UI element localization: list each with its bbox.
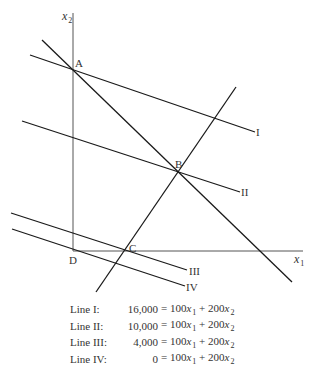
equation-name: Line IV: bbox=[70, 353, 116, 365]
equation-lhs: 4,000 bbox=[116, 336, 161, 348]
point-B-label: B bbox=[175, 159, 182, 170]
eq-sub: 2 bbox=[230, 341, 234, 350]
equation-row: Line II: 10,000 = 100x1 + 200x2 bbox=[70, 318, 290, 335]
equation-row: Line I: 16,000 = 100x1 + 200x2 bbox=[70, 301, 290, 318]
equation-row: Line IV: 0 = 100x1 + 200x2 bbox=[70, 351, 290, 368]
eq-part: + 200 bbox=[196, 335, 224, 347]
eq-var: x bbox=[186, 351, 191, 363]
equation-row: Line III: 4,000 = 100x1 + 200x2 bbox=[70, 334, 290, 351]
eq-part: = 100 bbox=[161, 318, 186, 330]
x1-axis-label: x1 bbox=[294, 254, 304, 269]
point-C-label: C bbox=[129, 243, 136, 254]
line-IV-label: IV bbox=[186, 282, 198, 293]
eq-sub: 2 bbox=[230, 324, 234, 333]
line-IV bbox=[12, 229, 185, 286]
line-II-label: II bbox=[241, 187, 248, 198]
line-I-label: I bbox=[256, 127, 260, 138]
line-I bbox=[30, 55, 255, 132]
eq-var: x bbox=[225, 302, 230, 314]
line-II bbox=[22, 121, 240, 192]
eq-var: x bbox=[186, 318, 191, 330]
equation-name: Line II: bbox=[70, 320, 116, 332]
equation-rhs: = 100x1 + 200x2 bbox=[161, 351, 234, 366]
equation-lhs: 10,000 bbox=[116, 320, 161, 332]
x1-label-sub: 1 bbox=[300, 259, 304, 268]
constraint-line-AB bbox=[42, 40, 292, 282]
line-III-label: III bbox=[189, 266, 200, 277]
equation-rhs: = 100x1 + 200x2 bbox=[161, 318, 234, 333]
eq-sub: 2 bbox=[230, 357, 234, 366]
eq-var: x bbox=[225, 351, 230, 363]
equation-name: Line III: bbox=[70, 336, 116, 348]
equation-name: Line I: bbox=[70, 303, 116, 315]
x2-label-var: x bbox=[62, 9, 67, 23]
equation-rhs: = 100x1 + 200x2 bbox=[161, 302, 234, 317]
eq-part: + 200 bbox=[196, 351, 224, 363]
eq-part: = 100 bbox=[161, 302, 186, 314]
linear-programming-diagram bbox=[0, 0, 310, 300]
equations-legend: Line I: 16,000 = 100x1 + 200x2 Line II: … bbox=[70, 301, 290, 367]
eq-var: x bbox=[186, 302, 191, 314]
line-III bbox=[11, 213, 187, 270]
eq-part: = 100 bbox=[161, 335, 186, 347]
equation-lhs: 0 bbox=[116, 353, 161, 365]
eq-var: x bbox=[186, 335, 191, 347]
x1-label-var: x bbox=[294, 252, 299, 266]
eq-part: + 200 bbox=[196, 318, 224, 330]
constraint-line-CB bbox=[96, 87, 236, 292]
eq-var: x bbox=[225, 318, 230, 330]
equation-rhs: = 100x1 + 200x2 bbox=[161, 335, 234, 350]
point-A-label: A bbox=[75, 58, 83, 69]
x2-label-sub: 2 bbox=[68, 16, 72, 25]
equation-lhs: 16,000 bbox=[116, 303, 161, 315]
eq-sub: 2 bbox=[230, 308, 234, 317]
eq-var: x bbox=[225, 335, 230, 347]
eq-part: + 200 bbox=[196, 302, 224, 314]
point-D-label: D bbox=[69, 255, 77, 266]
x2-axis-label: x2 bbox=[62, 11, 72, 26]
eq-part: = 100 bbox=[161, 351, 186, 363]
